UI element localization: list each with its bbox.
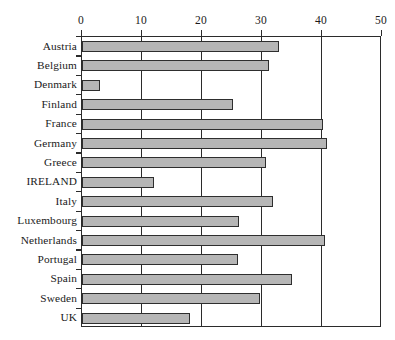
bar-ireland bbox=[82, 177, 154, 188]
category-label-luxembourg: Luxembourg bbox=[17, 214, 77, 226]
category-label-uk: UK bbox=[60, 311, 77, 323]
bar-spain bbox=[82, 274, 292, 285]
bar-belgium bbox=[82, 60, 269, 71]
category-label-greece: Greece bbox=[44, 156, 77, 168]
bar-austria bbox=[82, 41, 279, 52]
bar-finland bbox=[82, 99, 233, 110]
bar-denmark bbox=[82, 80, 100, 91]
bar-netherlands bbox=[82, 235, 325, 246]
category-label-denmark: Denmark bbox=[34, 78, 77, 90]
x-tick-label-0: 0 bbox=[78, 14, 84, 26]
bar-greece bbox=[82, 157, 266, 168]
bar-portugal bbox=[82, 254, 238, 265]
bar-italy bbox=[82, 196, 273, 207]
x-tick-label-40: 40 bbox=[315, 14, 327, 26]
bar-luxembourg bbox=[82, 216, 239, 227]
bar-chart-figure: 0 10 20 30 40 50 Austria Belgium Denmark… bbox=[0, 0, 395, 340]
x-tick-label-50: 50 bbox=[375, 14, 387, 26]
category-label-portugal: Portugal bbox=[38, 253, 77, 265]
bar-sweden bbox=[82, 293, 260, 304]
bar-france bbox=[82, 119, 323, 130]
bar-germany bbox=[82, 138, 327, 149]
category-label-belgium: Belgium bbox=[37, 59, 77, 71]
plot-area bbox=[81, 36, 381, 327]
category-label-spain: Spain bbox=[51, 272, 77, 284]
category-label-italy: Italy bbox=[56, 195, 77, 207]
category-label-netherlands: Netherlands bbox=[21, 234, 77, 246]
category-label-france: France bbox=[45, 117, 77, 129]
x-tick-label-30: 30 bbox=[255, 14, 267, 26]
x-tick-label-20: 20 bbox=[195, 14, 207, 26]
x-tick-mark-50 bbox=[381, 30, 382, 36]
category-label-germany: Germany bbox=[34, 137, 77, 149]
x-tick-label-10: 10 bbox=[135, 14, 147, 26]
category-label-ireland: IRELAND bbox=[26, 175, 77, 187]
category-label-austria: Austria bbox=[43, 40, 77, 52]
category-label-sweden: Sweden bbox=[40, 292, 77, 304]
gridline-40 bbox=[321, 37, 322, 326]
category-label-finland: Finland bbox=[41, 98, 77, 110]
bar-uk bbox=[82, 313, 190, 324]
